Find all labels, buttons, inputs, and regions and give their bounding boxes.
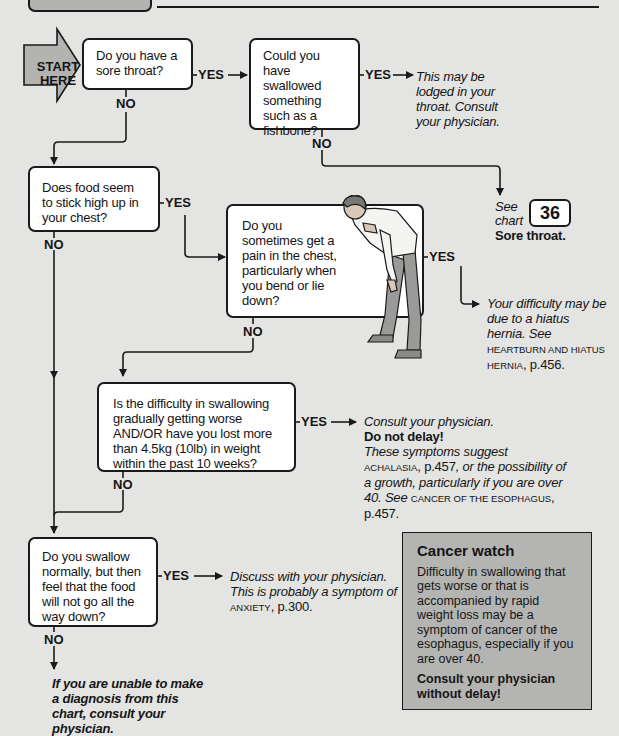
- outcome-text: Your difficulty may be due to a hiatus h…: [487, 296, 606, 341]
- panel-body: Difficulty in swallowing that gets worse…: [417, 565, 577, 667]
- cross-reference[interactable]: ACHALASIA: [364, 462, 417, 473]
- yes-label: YES: [429, 250, 455, 264]
- outcome-fishbone: This may be lodged in your throat. Consu…: [416, 69, 506, 129]
- man-bending-illustration: [335, 195, 435, 370]
- question-text: Do you have a sore throat?: [96, 48, 177, 78]
- panel-title: Cancer watch: [417, 544, 577, 559]
- cancer-watch-panel: Cancer watch Difficulty in swallowing th…: [402, 532, 592, 710]
- page-ref: , p.457: [417, 459, 455, 474]
- yes-label: YES: [365, 68, 391, 82]
- page-ref: , p.456.: [523, 357, 565, 372]
- question-food-sticks: Does food seem to stick high up in your …: [28, 166, 160, 232]
- no-label: NO: [116, 97, 136, 111]
- outcome-consult-physician: Consult your physician. Do not delay! Th…: [364, 414, 574, 521]
- see-text: See: [495, 199, 518, 214]
- panel-emphasis: Consult your physician without delay!: [417, 672, 577, 701]
- question-text: Does food seem to stick high up in your …: [42, 180, 139, 225]
- no-label: NO: [113, 478, 133, 492]
- page-ref: , p.300.: [271, 599, 313, 614]
- no-label: NO: [312, 137, 332, 151]
- yes-label: YES: [301, 415, 327, 429]
- chart-text: chart: [495, 213, 523, 228]
- yes-label: YES: [198, 68, 224, 82]
- no-label: NO: [44, 238, 64, 252]
- question-worsening-weight-loss: Is the difficulty in swallowing graduall…: [97, 382, 296, 472]
- outcome-hernia: Your difficulty may be due to a hiatus h…: [487, 296, 607, 373]
- question-text: Is the difficulty in swallowing graduall…: [113, 396, 272, 471]
- question-text: Do you swallow normally, but then feel t…: [42, 549, 141, 624]
- no-label: NO: [243, 325, 263, 339]
- outcome-text: These symptoms suggest: [364, 444, 508, 459]
- outcome-final: If you are unable to make a diagnosis fr…: [52, 676, 212, 736]
- urgent-text: Do not delay!: [364, 429, 444, 444]
- start-line1: START: [28, 60, 88, 74]
- question-sore-throat: Do you have a sore throat?: [82, 38, 193, 90]
- outcome-text: This may be lodged in your throat. Consu…: [416, 69, 500, 129]
- start-line2: HERE: [28, 74, 88, 88]
- yes-label: YES: [165, 196, 191, 210]
- cross-reference[interactable]: CANCER OF THE ESOPHAGUS: [411, 493, 551, 504]
- outcome-anxiety: Discuss with your physician. This is pro…: [230, 569, 400, 615]
- question-text: Could you have swallowed something such …: [263, 48, 321, 138]
- start-here-label: START HERE: [28, 60, 88, 88]
- question-fishbone: Could you have swallowed something such …: [249, 38, 360, 130]
- no-label: NO: [44, 633, 64, 647]
- cross-reference[interactable]: ANXIETY: [230, 602, 271, 613]
- question-text: Do you sometimes get a pain in the chest…: [242, 218, 342, 308]
- outcome-text: Consult your physician.: [364, 414, 494, 429]
- question-swallow-normally: Do you swallow normally, but then feel t…: [28, 537, 158, 627]
- chart-title: Sore throat.: [495, 228, 566, 243]
- outcome-text: Discuss with your physician. This is pro…: [230, 569, 397, 599]
- chart-number-badge[interactable]: 36: [529, 199, 571, 227]
- yes-label: YES: [163, 569, 189, 583]
